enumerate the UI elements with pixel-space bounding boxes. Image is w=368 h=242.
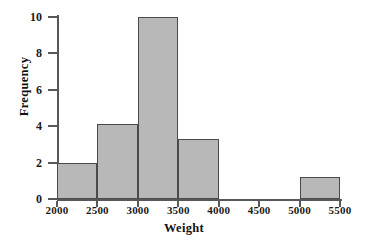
y-axis-tick [48, 16, 57, 18]
histogram-bar [300, 177, 340, 199]
y-axis-tick-label: 10 [2, 11, 42, 23]
histogram-bar [57, 163, 97, 199]
histogram-bar [138, 17, 178, 199]
y-axis-title: Frequency [17, 27, 32, 147]
y-axis-tick-label: 0 [2, 193, 42, 205]
x-axis-title: Weight [0, 221, 368, 236]
y-axis-tick [48, 198, 57, 200]
y-axis-tick [48, 125, 57, 127]
histogram-bar [97, 124, 137, 199]
y-axis-tick [48, 162, 57, 164]
histogram-chart: 0246810 20002500300035004000450050005500… [0, 0, 368, 242]
x-axis-tick-label: 5500 [310, 205, 368, 216]
y-axis-tick-label: 2 [2, 157, 42, 169]
y-axis-tick [48, 52, 57, 54]
histogram-bar [178, 139, 218, 199]
y-axis-tick [48, 89, 57, 91]
